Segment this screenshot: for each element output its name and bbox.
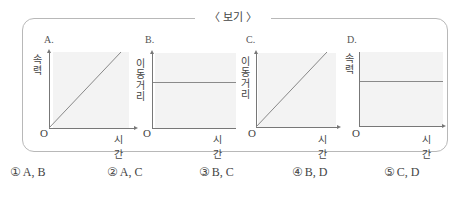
chart-label: C. — [246, 34, 255, 45]
option-2[interactable]: ②A, C — [107, 165, 142, 180]
option-number: ⑤ — [384, 165, 395, 179]
origin-label: O — [143, 127, 151, 139]
origin-label: O — [352, 127, 360, 139]
x-axis — [49, 128, 135, 129]
option-text: B, D — [305, 165, 328, 179]
x-axis-arrow-icon — [442, 124, 446, 128]
plot-area — [155, 53, 236, 128]
x-axis-label: 시간 — [114, 131, 123, 161]
origin-label: O — [40, 127, 48, 139]
x-axis-label: 시간 — [213, 131, 222, 161]
example-box-title: 〈 보기 〉 — [195, 10, 271, 26]
x-axis-label: 시간 — [318, 131, 327, 161]
x-axis — [256, 127, 338, 128]
x-axis — [152, 128, 236, 129]
data-line — [153, 82, 236, 83]
origin-label: O — [248, 127, 256, 139]
plot-area — [360, 52, 443, 126]
chart-label: A. — [44, 34, 54, 45]
data-line — [360, 81, 443, 82]
option-number: ② — [107, 165, 118, 179]
x-axis-label: 시간 — [422, 131, 431, 161]
x-axis-arrow-icon — [134, 126, 138, 130]
option-number: ① — [10, 165, 21, 179]
y-axis-label: 이동거리 — [134, 58, 146, 102]
chart-label: D. — [347, 34, 357, 45]
y-axis-label: 이동거리 — [239, 56, 251, 100]
chart-label: B. — [145, 34, 154, 45]
x-axis — [359, 126, 443, 127]
data-line — [49, 52, 121, 128]
option-text: C, D — [397, 165, 420, 179]
option-text: A, C — [120, 165, 143, 179]
option-3[interactable]: ③B, C — [199, 165, 234, 180]
y-axis-label: 속력 — [31, 54, 43, 76]
option-number: ③ — [199, 165, 210, 179]
option-5[interactable]: ⑤C, D — [384, 165, 419, 180]
y-axis-arrow-icon — [150, 50, 154, 54]
y-axis-label: 속력 — [343, 53, 355, 75]
option-number: ④ — [292, 165, 303, 179]
y-axis — [359, 52, 360, 127]
x-axis-arrow-icon — [337, 125, 341, 129]
option-1[interactable]: ①A, B — [10, 165, 45, 180]
option-4[interactable]: ④B, D — [292, 165, 327, 180]
option-text: A, B — [23, 165, 46, 179]
option-text: B, C — [212, 165, 234, 179]
y-axis — [152, 53, 153, 129]
data-line — [256, 52, 327, 127]
